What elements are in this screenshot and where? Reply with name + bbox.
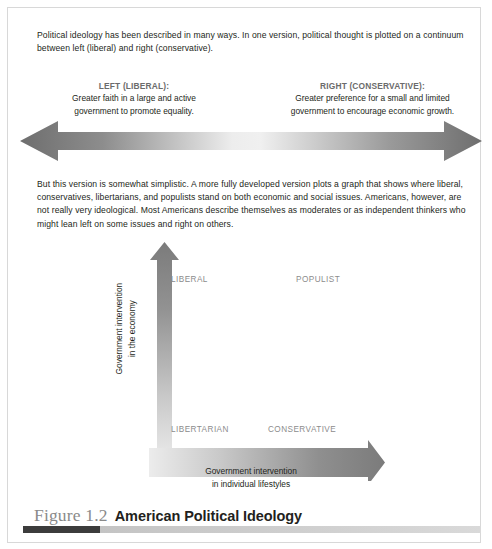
x-axis-title-line-1: Government intervention: [151, 465, 351, 478]
right-conservative-line-1: Greater preference for a small and limit…: [260, 92, 485, 104]
right-conservative-title: RIGHT (CONSERVATIVE):: [260, 80, 485, 92]
quadrant-label-libertarian: LIBERTARIAN: [171, 425, 229, 434]
left-liberal-line-1: Greater faith in a large and active: [34, 92, 234, 104]
figure-number: Figure 1.2: [34, 505, 108, 525]
left-liberal-title: LEFT (LIBERAL):: [34, 80, 234, 92]
right-conservative-line-2: government to encourage economic growth.: [260, 105, 485, 117]
ideology-quadrant-graph: LIBERAL POPULIST LIBERTARIAN CONSERVATIV…: [113, 236, 403, 481]
y-axis-title-line-2: in the economy: [126, 254, 139, 404]
y-axis-title-line-1: Government intervention: [113, 254, 126, 404]
quadrant-label-conservative: CONSERVATIVE: [268, 425, 336, 434]
quadrant-label-liberal: LIBERAL: [171, 275, 208, 284]
graph-axes: [113, 236, 403, 481]
x-axis-title: Government intervention in individual li…: [151, 465, 351, 490]
figure-title: American Political Ideology: [115, 508, 302, 524]
left-liberal-caption: LEFT (LIBERAL): Greater faith in a large…: [34, 80, 234, 117]
x-axis-title-line-2: in individual lifestyles: [151, 478, 351, 491]
left-right-continuum-arrow-icon: [20, 120, 482, 162]
figure-caption: Figure 1.2American Political Ideology: [34, 505, 464, 526]
secondary-paragraph: But this version is somewhat simplistic.…: [37, 178, 473, 231]
left-liberal-line-2: government to promote equality.: [34, 105, 234, 117]
right-conservative-caption: RIGHT (CONSERVATIVE): Greater preference…: [260, 80, 485, 117]
quadrant-label-populist: POPULIST: [296, 275, 340, 284]
intro-paragraph: Political ideology has been described in…: [37, 29, 469, 55]
figure-frame: Political ideology has been described in…: [7, 7, 481, 543]
y-axis-title: Government intervention in the economy: [113, 254, 138, 404]
caption-rule-divider: [23, 526, 481, 533]
